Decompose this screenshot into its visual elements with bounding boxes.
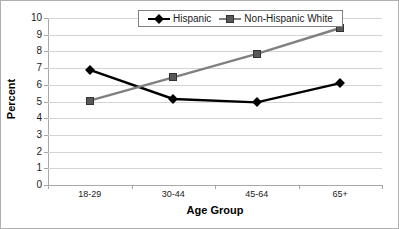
square-marker-icon bbox=[219, 14, 241, 24]
legend: Hispanic Non-Hispanic White bbox=[138, 10, 343, 27]
y-tick-label: 2 bbox=[12, 147, 42, 157]
x-tick-mark bbox=[299, 185, 300, 189]
legend-entry-hispanic[interactable]: Hispanic bbox=[148, 13, 211, 24]
x-tick-mark bbox=[382, 185, 383, 189]
y-tick-label: 9 bbox=[12, 30, 42, 40]
series-lines bbox=[48, 18, 382, 185]
series-line bbox=[90, 28, 341, 101]
legend-label: Hispanic bbox=[173, 13, 211, 24]
data-point-marker bbox=[86, 97, 94, 105]
y-axis-title: Percent bbox=[5, 64, 17, 134]
x-tick-mark bbox=[215, 185, 216, 189]
diamond-marker-icon bbox=[148, 14, 170, 24]
series-line bbox=[90, 70, 341, 103]
x-axis-title: Age Group bbox=[48, 204, 382, 216]
y-tick-label: 8 bbox=[12, 46, 42, 56]
legend-label: Non-Hispanic White bbox=[244, 13, 332, 24]
x-tick-mark bbox=[48, 185, 49, 189]
y-tick-label: 10 bbox=[12, 13, 42, 23]
x-tick-label: 65+ bbox=[305, 189, 375, 200]
x-tick-label: 18-29 bbox=[55, 189, 125, 200]
x-tick-label: 45-64 bbox=[222, 189, 292, 200]
y-tick-label: 1 bbox=[12, 163, 42, 173]
data-point-marker bbox=[253, 50, 261, 58]
y-tick-label: 0 bbox=[12, 180, 42, 190]
legend-entry-non-hispanic-white[interactable]: Non-Hispanic White bbox=[219, 13, 332, 24]
x-tick-label: 30-44 bbox=[138, 189, 208, 200]
plot-area bbox=[48, 18, 382, 185]
x-tick-mark bbox=[132, 185, 133, 189]
line-chart: 109876543210 18-2930-4445-6465+ Age Grou… bbox=[0, 0, 399, 229]
data-point-marker bbox=[169, 73, 177, 81]
